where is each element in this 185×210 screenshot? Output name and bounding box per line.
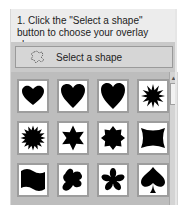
shape-panel: 1. Click the "Select a shape" button to …	[10, 9, 177, 205]
spade-icon	[140, 166, 166, 194]
panel-edge	[175, 9, 177, 205]
select-shape-area: Select a shape	[11, 42, 177, 72]
select-shape-button[interactable]: Select a shape	[15, 46, 173, 68]
wave-flag-icon	[20, 167, 46, 193]
shape-tile-star-6[interactable]	[57, 121, 89, 155]
shape-grid: ▲	[11, 72, 177, 205]
flower-icon	[100, 167, 126, 193]
starburst-icon	[20, 125, 46, 151]
shape-tile-blob[interactable]	[57, 163, 89, 197]
select-shape-label: Select a shape	[56, 52, 122, 63]
star-icon	[100, 125, 126, 151]
shape-tile-flower[interactable]	[97, 163, 129, 197]
puzzle-shape-icon	[30, 50, 46, 64]
shape-tile-star-8[interactable]	[97, 121, 129, 155]
shape-tile-bow-tie[interactable]	[137, 121, 169, 155]
blob-icon	[60, 167, 86, 193]
shape-tile-spade[interactable]	[137, 163, 169, 197]
shape-tile-heart-wide[interactable]	[17, 79, 49, 113]
shape-tile-wave-flag[interactable]	[17, 163, 49, 197]
shape-tile-heart[interactable]	[57, 79, 89, 113]
shape-tile-starburst-16[interactable]	[17, 121, 49, 155]
starburst-icon	[140, 83, 166, 109]
bow-tie-icon	[140, 126, 166, 150]
heart-icon	[100, 82, 126, 110]
shape-tile-heart-tall[interactable]	[97, 79, 129, 113]
heart-icon	[60, 83, 86, 109]
heart-icon	[21, 85, 45, 107]
star-icon	[60, 125, 86, 151]
shape-tile-starburst-12[interactable]	[137, 79, 169, 113]
